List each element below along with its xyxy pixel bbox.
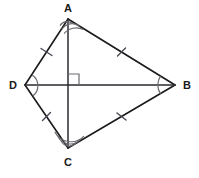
vertex-label-C: C — [64, 156, 72, 168]
vertex-label-B: B — [183, 79, 191, 91]
right-angle-marker — [68, 74, 79, 85]
angle-arc-A — [60, 22, 83, 34]
geometry-canvas: A B C D — [0, 0, 199, 178]
kite-edges — [25, 19, 175, 148]
tick-edge-DA — [41, 49, 52, 56]
vertex-label-A: A — [64, 2, 72, 14]
tick-edge-AB — [118, 48, 126, 56]
geometry-figure: A B C D — [0, 0, 199, 178]
vertex-label-D: D — [9, 79, 17, 91]
